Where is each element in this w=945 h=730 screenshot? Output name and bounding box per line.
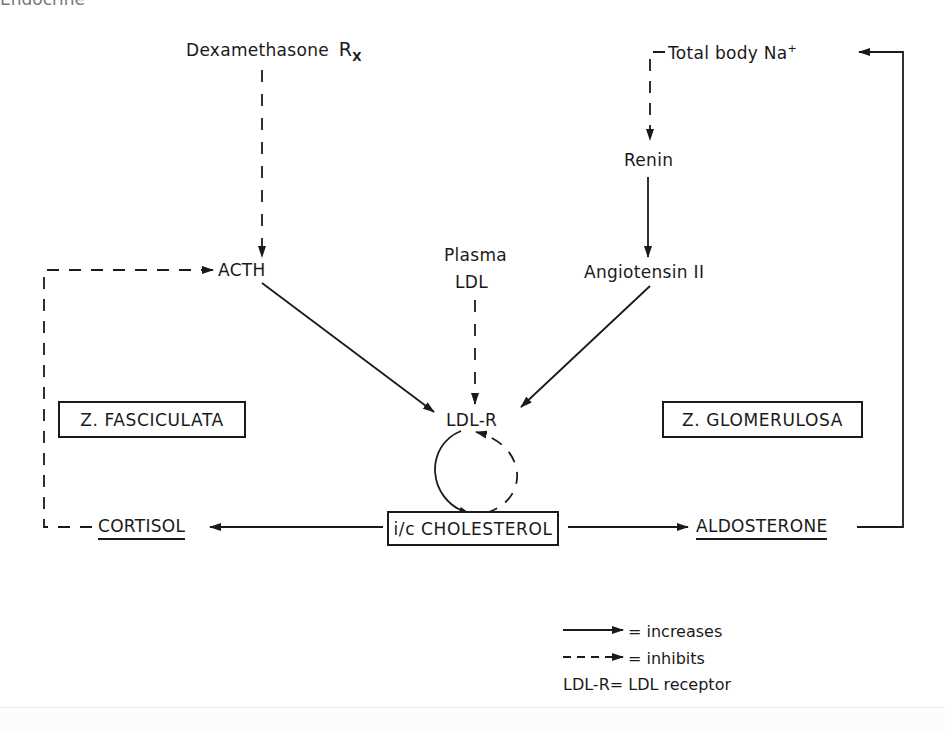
edge-angiotensin-ldlr: [521, 286, 650, 407]
box-z-fasciculata: Z. FASCICULATA: [58, 401, 246, 438]
node-total-body-na: Total body Na+: [668, 43, 797, 62]
edge-acth-ldlr: [262, 283, 434, 412]
edge-aldosterone-na: [857, 52, 903, 527]
legend-ldl-r-abbrev: LDL-R= LDL receptor: [563, 675, 731, 694]
edge-ldlr-cholesterol: [435, 431, 470, 514]
dexamethasone-label: Dexamethasone: [186, 40, 329, 60]
legend-increases: = increases: [628, 622, 722, 641]
legend-inhibits: = inhibits: [628, 649, 705, 668]
node-renin: Renin: [624, 152, 673, 169]
node-dexamethasone: Dexamethasone RX: [186, 40, 362, 63]
bottom-margin: [0, 707, 945, 730]
box-ic-cholesterol: i/c CHOLESTEROL: [387, 511, 559, 546]
node-plasma-ldl-line1: Plasma: [444, 247, 507, 264]
edge-na-renin: [650, 52, 665, 140]
node-cortisol: CORTISOL: [98, 518, 185, 540]
node-angiotensin-ii: Angiotensin II: [584, 264, 704, 281]
rx-symbol: RX: [339, 38, 362, 60]
node-aldosterone: ALDOSTERONE: [696, 518, 827, 540]
edge-cortisol-acth: [44, 270, 213, 527]
box-z-glomerulosa: Z. GLOMERULOSA: [662, 401, 863, 438]
node-plasma-ldl-line2: LDL: [455, 274, 488, 291]
node-ldl-receptor: LDL-R: [446, 412, 497, 429]
edge-cholesterol-ldlr: [476, 432, 517, 513]
node-acth: ACTH: [218, 262, 266, 279]
